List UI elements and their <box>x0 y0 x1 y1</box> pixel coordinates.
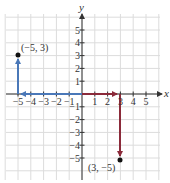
x-tick-label: −3 <box>38 96 49 107</box>
x-tick-label: −2 <box>51 96 62 107</box>
point-neg5-3 <box>16 53 21 58</box>
point-3-neg5 <box>118 158 123 163</box>
y-tick-label: 2 <box>75 63 80 74</box>
y-tick-label: 3 <box>75 50 80 61</box>
x-tick-label: 3 <box>118 96 123 107</box>
point-label-3-neg5: (3, −5) <box>88 162 115 174</box>
y-tick-label: −2 <box>69 114 80 125</box>
point-label-neg5-3: (−5, 3) <box>21 42 48 54</box>
y-tick-label: 4 <box>75 37 80 48</box>
x-tick-label: 4 <box>131 96 136 107</box>
x-tick-label: 5 <box>144 96 149 107</box>
x-tick-label: −5 <box>13 96 24 107</box>
x-tick-label: 1 <box>92 96 97 107</box>
y-tick-label: −3 <box>69 127 80 138</box>
y-tick-label: 5 <box>75 25 80 36</box>
x-tick-label: −4 <box>25 96 36 107</box>
coordinate-plane: −5−4−3−2−112345 54321−1−2−3−4−5 x y (−5,… <box>0 0 170 183</box>
x-tick-labels: −5−4−3−2−112345 <box>13 96 149 107</box>
x-tick-label: 2 <box>105 96 110 107</box>
x-axis-label: x <box>163 87 169 99</box>
y-axis-label: y <box>78 1 84 13</box>
blue-path <box>18 59 82 94</box>
y-tick-label: 1 <box>75 76 80 87</box>
y-tick-label: −5 <box>69 153 80 164</box>
red-path <box>82 94 120 156</box>
y-tick-label: −1 <box>69 101 80 112</box>
y-tick-label: −4 <box>69 140 80 151</box>
